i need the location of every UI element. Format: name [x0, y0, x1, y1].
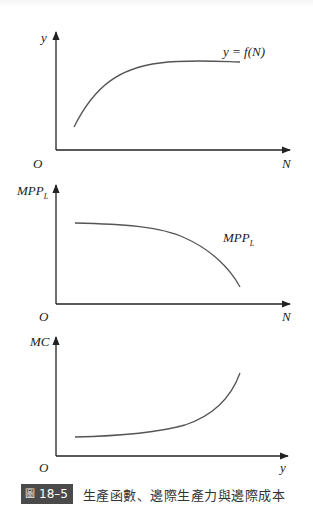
- production-curve: [74, 61, 240, 127]
- charts-figure: y N O y = f(N) MPPL N O MPPL MC y O: [0, 0, 313, 521]
- figure-number-badge: 圖 18–5: [21, 484, 73, 504]
- figure-title: 生產函數、邊際生產力與邊際成本: [83, 485, 286, 504]
- y-axis-label: y: [39, 30, 47, 45]
- origin-label: O: [33, 156, 43, 171]
- origin-label: O: [39, 309, 49, 324]
- figure-number: 18–5: [39, 486, 68, 502]
- y-axis-label: MPPL: [16, 183, 49, 201]
- curve-label: y = f(N): [221, 44, 265, 59]
- mpp-curve: [75, 223, 240, 287]
- curve-label: MPPL: [222, 230, 255, 248]
- mc-chart: MC y O: [29, 334, 288, 475]
- origin-label: O: [39, 460, 49, 475]
- figure-caption: 圖 18–5 生產函數、邊際生產力與邊際成本: [21, 484, 285, 504]
- figure-glyph: 圖: [25, 486, 35, 502]
- mpp-chart: MPPL N O MPPL: [16, 183, 292, 324]
- production-function-chart: y N O y = f(N): [33, 30, 292, 171]
- y-axis-label: MC: [29, 334, 50, 349]
- x-axis-label: N: [281, 309, 292, 324]
- x-axis-label: N: [281, 156, 292, 171]
- mc-curve: [75, 373, 240, 437]
- x-axis-label: y: [278, 460, 286, 475]
